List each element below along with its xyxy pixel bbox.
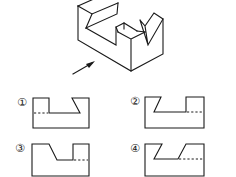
diagram-canvas: ① ② ③ ④ xyxy=(0,0,236,177)
arrow-head-icon xyxy=(86,61,95,68)
block-front-right xyxy=(118,23,145,71)
block-v-notch xyxy=(140,13,163,45)
block-top-left-edge xyxy=(78,0,96,6)
option-3-label: ③ xyxy=(15,142,25,155)
option-2-label: ② xyxy=(130,95,140,108)
option-4[interactable]: ④ xyxy=(130,142,204,176)
option-4-outline xyxy=(145,144,204,176)
option-1-outline xyxy=(33,98,89,128)
option-1[interactable]: ① xyxy=(17,96,89,128)
option-3[interactable]: ③ xyxy=(15,142,89,176)
option-2-outline xyxy=(145,97,204,128)
block-slot xyxy=(86,23,137,45)
block-left-slant xyxy=(86,3,118,28)
block-left-top-face xyxy=(78,3,118,14)
option-2[interactable]: ② xyxy=(130,95,204,128)
isometric-block xyxy=(78,0,163,71)
view-direction-arrow xyxy=(73,61,95,74)
option-4-label: ④ xyxy=(130,142,140,155)
option-1-label: ① xyxy=(17,96,27,109)
option-3-outline xyxy=(32,144,89,176)
